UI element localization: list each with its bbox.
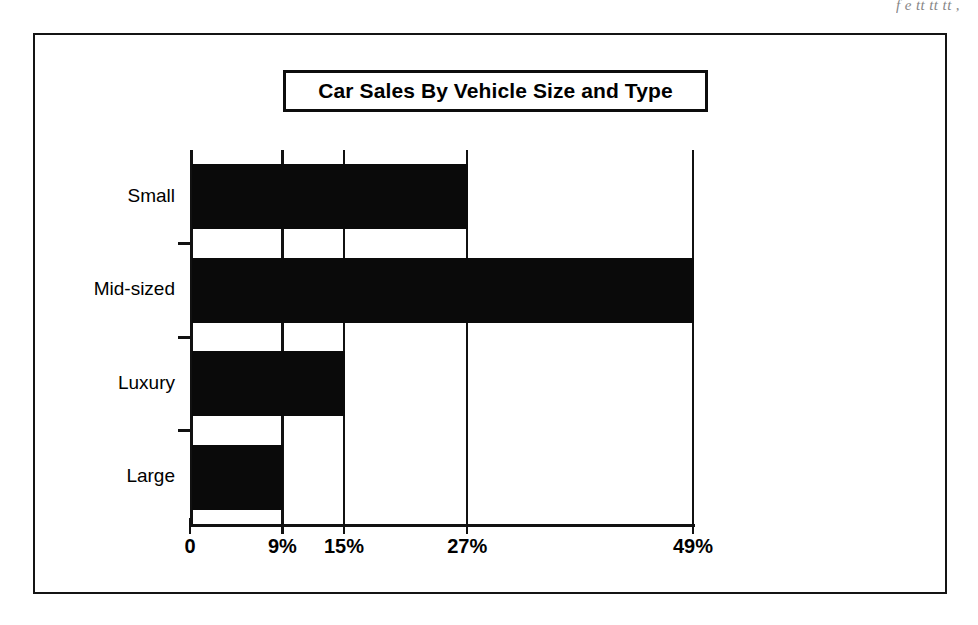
x-tick-27pct <box>466 518 469 534</box>
x-tick-label: 9% <box>268 535 297 558</box>
x-tick-9pct <box>281 518 284 534</box>
x-tick-label: 0 <box>184 535 195 558</box>
x-tick-label: 15% <box>324 535 364 558</box>
page-bleed-caption: f e tt tt tt , <box>560 0 960 13</box>
x-tick-label: 27% <box>447 535 487 558</box>
x-tick-15pct <box>343 518 346 534</box>
y-tick-mark <box>178 336 192 339</box>
bar-luxury[interactable] <box>192 351 345 416</box>
gridline-49pct <box>692 150 695 527</box>
x-axis-line <box>190 524 695 527</box>
y-tick-mark <box>178 429 192 432</box>
bar-small[interactable] <box>192 164 468 229</box>
x-tick-0 <box>189 518 192 534</box>
category-label-mid-sized: Mid-sized <box>35 278 175 300</box>
category-label-luxury: Luxury <box>35 372 175 394</box>
x-tick-label: 49% <box>673 535 713 558</box>
bar-mid-sized[interactable] <box>192 258 694 323</box>
plot-area: 09%15%27%49% SmallMid-sizedLuxuryLarge <box>35 35 945 592</box>
bar-large[interactable] <box>192 445 283 510</box>
y-tick-mark <box>178 242 192 245</box>
figure-frame: Car Sales By Vehicle Size and Type 09%15… <box>33 33 947 594</box>
category-label-small: Small <box>35 185 175 207</box>
x-tick-49pct <box>692 518 695 534</box>
category-label-large: Large <box>35 465 175 487</box>
